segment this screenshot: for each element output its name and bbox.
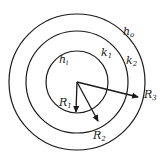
label-k-2: k2	[126, 54, 138, 68]
label-r-1: R1	[58, 96, 72, 110]
label-k-1: k1	[101, 46, 112, 60]
label-r-3: R3	[143, 88, 157, 102]
radius-r1-arrow	[76, 82, 77, 112]
radius-r2-arrow	[77, 82, 98, 121]
label-h-o: ho	[123, 25, 134, 39]
concentric-circles-diagram: hi k1 k2 ho R1 R2 R3	[0, 0, 166, 159]
label-h-i: hi	[59, 53, 68, 67]
label-r-2: R2	[92, 129, 106, 143]
